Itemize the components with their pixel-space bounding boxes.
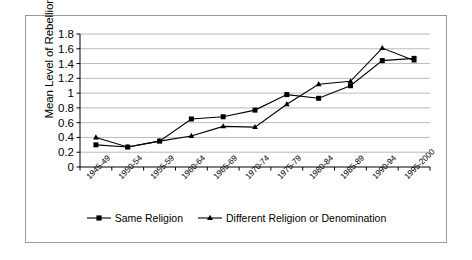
legend-label: Different Religion or Denomination <box>226 212 386 224</box>
chart-plot-svg <box>26 16 448 244</box>
square-marker-icon <box>86 212 112 224</box>
plot-area: Mean Level of Rebellion 00.20.40.60.811.… <box>26 16 446 242</box>
triangle-marker-icon <box>197 212 223 224</box>
legend-item[interactable]: Same Religion <box>86 212 183 224</box>
chart-legend: Same ReligionDifferent Religion or Denom… <box>26 212 446 224</box>
series-2 <box>93 45 417 149</box>
gridlines <box>80 34 430 167</box>
legend-item[interactable]: Different Religion or Denomination <box>197 212 386 224</box>
legend-label: Same Religion <box>115 212 183 224</box>
chart-container: Mean Level of Rebellion 00.20.40.60.811.… <box>25 15 447 243</box>
axes <box>77 34 431 171</box>
series-1 <box>93 56 416 150</box>
